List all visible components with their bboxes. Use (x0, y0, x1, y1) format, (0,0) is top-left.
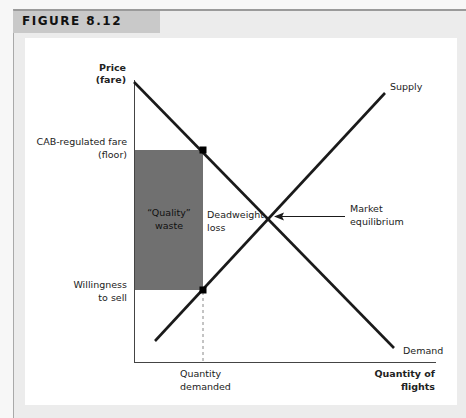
quality-waste-label-line2: waste (155, 220, 183, 231)
willingness-label-line2: to sell (98, 292, 127, 303)
demand-label: Demand (403, 345, 443, 356)
quantity-demanded-label-line1: Quantity (180, 368, 221, 379)
willingness-label-line1: Willingness (73, 279, 127, 290)
market-equilibrium-label-line1: Market (350, 203, 383, 214)
quantity-demanded-label-line2: demanded (180, 381, 231, 392)
x-axis-label-line2: flights (401, 381, 435, 392)
y-axis-label-line2: (fare) (96, 74, 126, 85)
floor-supply-point (200, 287, 207, 294)
deadweight-loss-label-line2: loss (207, 222, 225, 233)
price-floor-label-line2: (floor) (98, 149, 127, 160)
deadweight-loss-label-line1: Deadweight (207, 209, 264, 220)
quality-waste-label-line1: “Quality” (147, 207, 191, 218)
supply-label: Supply (390, 81, 423, 92)
y-axis-label-line1: Price (99, 62, 126, 73)
x-axis-label-line1: Quantity of (374, 368, 435, 379)
price-floor-label-line1: CAB-regulated fare (37, 136, 128, 147)
floor-demand-point (200, 147, 207, 154)
supply-demand-chart: Price (fare) CAB-regulated fare (floor) … (0, 0, 466, 418)
market-equilibrium-label-line2: equilibrium (350, 216, 404, 227)
